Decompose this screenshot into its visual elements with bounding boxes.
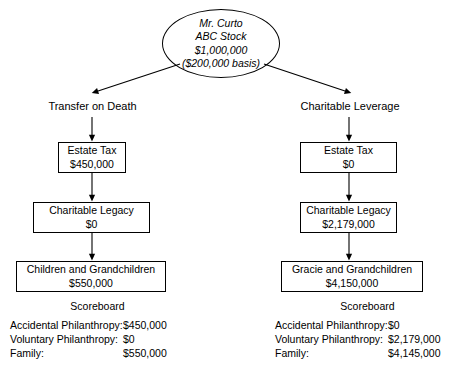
- scoreboard-row-amount: $4,145,000: [388, 346, 460, 360]
- node-value: $2,179,000: [322, 218, 375, 232]
- source-owner-name: Mr. Curto: [199, 17, 242, 31]
- branch-label-charitable-leverage: Charitable Leverage: [275, 100, 425, 112]
- node-right-family: Gracie and Grandchildren $4,150,000: [281, 261, 423, 292]
- scoreboard-row: Voluntary Philanthropy: $2,179,000: [275, 332, 460, 346]
- scoreboard-title: Scoreboard: [275, 300, 460, 312]
- scoreboard-row-label: Family:: [275, 346, 309, 360]
- scoreboard-charitable-leverage: Scoreboard Accidental Philanthropy: $0 V…: [275, 300, 460, 360]
- node-title: Charitable Legacy: [49, 204, 134, 218]
- node-value: $4,150,000: [326, 277, 379, 291]
- node-value: $550,000: [69, 277, 113, 291]
- scoreboard-row-amount: $0: [123, 332, 185, 346]
- scoreboard-row: Accidental Philanthropy: $450,000: [10, 318, 185, 332]
- node-left-charitable-legacy: Charitable Legacy $0: [33, 202, 150, 233]
- scoreboard-row-label: Accidental Philanthropy:: [275, 318, 388, 332]
- node-title: Charitable Legacy: [306, 204, 391, 218]
- scoreboard-row-label: Family:: [10, 346, 44, 360]
- node-value: $0: [86, 218, 98, 232]
- scoreboard-row-amount: $2,179,000: [388, 332, 460, 346]
- scoreboard-transfer-on-death: Scoreboard Accidental Philanthropy: $450…: [10, 300, 185, 360]
- node-left-estate-tax: Estate Tax $450,000: [58, 142, 126, 173]
- node-value: $450,000: [70, 158, 114, 172]
- scoreboard-row: Accidental Philanthropy: $0: [275, 318, 460, 332]
- scoreboard-row-label: Voluntary Philanthropy:: [10, 332, 118, 346]
- node-left-family: Children and Grandchildren $550,000: [16, 261, 166, 292]
- node-right-estate-tax: Estate Tax $0: [300, 142, 397, 173]
- source-value: $1,000,000: [195, 44, 248, 58]
- scoreboard-row: Family: $4,145,000: [275, 346, 460, 360]
- connector-source-to-transfer-on-death: [95, 64, 180, 92]
- source-basis: ($200,000 basis): [182, 57, 260, 71]
- source-asset: ABC Stock: [196, 30, 247, 44]
- scoreboard-row-label: Voluntary Philanthropy:: [275, 332, 383, 346]
- node-title: Gracie and Grandchildren: [292, 263, 412, 277]
- source-node: Mr. Curto ABC Stock $1,000,000 ($200,000…: [162, 9, 280, 78]
- scoreboard-title: Scoreboard: [10, 300, 185, 312]
- scoreboard-row-amount: $550,000: [123, 346, 185, 360]
- scoreboard-row: Family: $550,000: [10, 346, 185, 360]
- node-title: Estate Tax: [68, 144, 117, 158]
- scoreboard-rows: Accidental Philanthropy: $450,000 Volunt…: [10, 318, 185, 360]
- node-value: $0: [343, 158, 355, 172]
- branch-label-transfer-on-death: Transfer on Death: [20, 100, 165, 112]
- scoreboard-row: Voluntary Philanthropy: $0: [10, 332, 185, 346]
- node-title: Children and Grandchildren: [27, 263, 155, 277]
- scoreboard-rows: Accidental Philanthropy: $0 Voluntary Ph…: [275, 318, 460, 360]
- connector-source-to-charitable-leverage: [264, 64, 348, 92]
- node-right-charitable-legacy: Charitable Legacy $2,179,000: [300, 202, 397, 233]
- scoreboard-row-amount: $0: [388, 318, 460, 332]
- node-title: Estate Tax: [324, 144, 373, 158]
- diagram-canvas: Mr. Curto ABC Stock $1,000,000 ($200,000…: [0, 0, 464, 370]
- scoreboard-row-label: Accidental Philanthropy:: [10, 318, 123, 332]
- scoreboard-row-amount: $450,000: [123, 318, 185, 332]
